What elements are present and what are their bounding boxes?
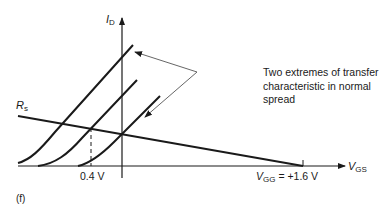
- leader-arrow-lower: [145, 72, 197, 117]
- rs-subscript: s: [24, 104, 28, 113]
- annotation-text: Two extremes of transfer characteristic …: [263, 66, 379, 107]
- figure-label: (f): [16, 192, 25, 205]
- vgs-axis-label: VGS: [348, 160, 367, 176]
- vgg-subscript: GG: [263, 175, 275, 184]
- vgg-symbol: V: [256, 170, 263, 182]
- leader-arrow-upper: [135, 52, 197, 72]
- threshold-label: 0.4 V: [80, 170, 105, 183]
- transfer-curve-right: [78, 96, 160, 166]
- id-axis-label: ID: [106, 13, 115, 29]
- vgs-subscript: GS: [355, 165, 367, 174]
- rs-label: Rs: [16, 99, 28, 115]
- annotation-line-2: characteristic in normal: [263, 80, 379, 94]
- vgg-label: VGG = +1.6 V: [256, 170, 318, 186]
- annotation-line-1: Two extremes of transfer: [263, 66, 379, 80]
- id-subscript: D: [109, 18, 115, 27]
- vgg-value: = +1.6 V: [275, 170, 318, 182]
- rs-symbol: R: [16, 99, 24, 111]
- annotation-line-3: spread: [263, 93, 379, 107]
